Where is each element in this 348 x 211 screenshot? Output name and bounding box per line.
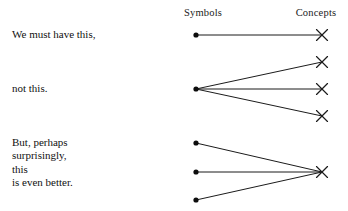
caption-row-many-to-one: But, perhaps surprisingly, this is even … [12,136,73,190]
mapping-edge [196,89,322,116]
caption-row-one-to-one: We must have this, [12,28,95,41]
column-header-symbols: Symbols [179,7,227,18]
symbol-node-dot [193,32,198,37]
symbols-concepts-diagram: Symbols Concepts We must have this, not … [0,0,348,211]
caption-line: surprisingly, [12,149,73,162]
mapping-edge [196,143,322,172]
caption-line: is even better. [12,176,73,189]
mapping-edge [196,172,322,200]
caption-line: But, perhaps [12,136,73,149]
caption-row-one-to-many: not this. [12,82,47,95]
caption-line: not this. [12,82,47,95]
concept-node-cross-icon [317,111,328,122]
symbol-node-dot [193,140,198,145]
caption-line: this [12,163,73,176]
concept-node-cross-icon [317,57,328,68]
edges-layer [196,35,322,200]
caption-line: We must have this, [12,28,95,41]
symbol-node-dot [193,169,198,174]
symbol-node-dot [193,197,198,202]
column-header-concepts: Concepts [291,7,341,18]
symbol-node-dot [193,86,198,91]
nodes-layer [193,30,327,203]
mapping-edge [196,62,322,89]
